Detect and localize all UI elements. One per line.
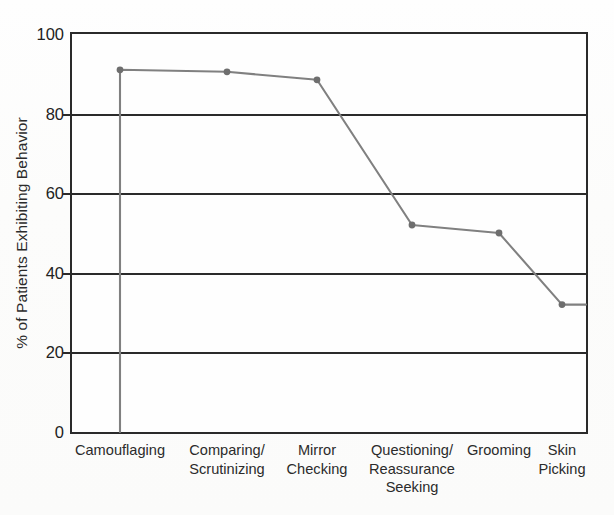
x-axis-labels: CamouflagingComparing/ ScrutinizingMirro… [0,441,614,515]
data-point-marker [496,230,503,237]
x-axis-category-label: Skin Picking [520,441,604,478]
data-point-marker [117,66,124,73]
data-point-marker [314,76,321,83]
y-axis-tick-labels: 020406080100 [16,0,64,515]
y-axis-tick-label: 0 [20,423,64,441]
y-axis-tick-mark [63,273,70,275]
data-point-marker [224,68,231,75]
y-axis-tick-label: 40 [20,264,64,282]
plot-area [70,32,588,434]
data-point-marker [559,301,566,308]
series-markers [117,66,566,308]
data-point-marker [409,222,416,229]
x-axis-category-label: Camouflaging [55,441,185,460]
line-chart-figure: % of Patients Exhibiting Behavior 020406… [0,0,614,515]
y-axis-tick-mark [63,114,70,116]
series-line-group [72,34,586,432]
y-axis-tick-label: 20 [20,343,64,361]
y-axis-tick-label: 100 [20,25,64,43]
series-line [120,70,586,432]
y-axis-tick-mark [63,352,70,354]
y-axis-tick-label: 60 [20,184,64,202]
y-axis-tick-label: 80 [20,105,64,123]
y-axis-tick-mark [63,193,70,195]
chart-page: % of Patients Exhibiting Behavior 020406… [0,0,614,515]
